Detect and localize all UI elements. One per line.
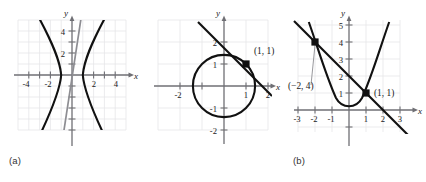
y-tick-label: 5 xyxy=(339,21,343,31)
y-tick-label: 3 xyxy=(339,55,343,65)
x-tick-label: 1 xyxy=(364,114,368,124)
panel-c: -3 -2 -1 1 2 3 1 2 3 4 5 (−2, 4) (1, 1) … xyxy=(284,0,426,182)
x-axis-label: x xyxy=(417,106,422,116)
x-axis-label: x xyxy=(133,71,138,81)
point-label: (1, 1) xyxy=(254,46,274,57)
plot-b-svg: -2 1 2 2 1 -1 -2 (1, 1) x y xyxy=(142,0,284,150)
x-tick-label: 3 xyxy=(398,114,402,124)
y-tick-label: 2 xyxy=(213,38,217,48)
math-figure: -4 -2 2 4 2 4 x y (a) xyxy=(0,0,426,182)
x-tick-label: 1 xyxy=(244,90,248,100)
panel-a: -4 -2 2 4 2 4 x y (a) xyxy=(0,0,142,182)
plot-a-svg: -4 -2 2 4 2 4 x y xyxy=(0,0,142,150)
leader-line xyxy=(311,45,315,85)
y-tick-label: 2 xyxy=(61,49,65,59)
y-tick-label: -2 xyxy=(210,126,217,136)
y-axis-label: y xyxy=(215,8,220,18)
y-axis-label: y xyxy=(340,8,345,18)
x-axis-label: x xyxy=(275,82,280,92)
y-tick-label: -1 xyxy=(210,104,217,114)
x-tick-label: -2 xyxy=(310,114,317,124)
y-tick-label: 4 xyxy=(61,27,66,37)
y-axis-label: y xyxy=(63,8,68,18)
y-tick-label: 2 xyxy=(339,72,343,82)
x-tick-label: -1 xyxy=(327,114,334,124)
plot-a: -4 -2 2 4 2 4 x y xyxy=(0,0,142,150)
x-tick-label: -3 xyxy=(293,114,300,124)
point-marker xyxy=(362,89,369,96)
panel-b: -2 1 2 2 1 -1 -2 (1, 1) x y (b) xyxy=(142,0,284,182)
plot-b: -2 1 2 2 1 -1 -2 (1, 1) x y xyxy=(142,0,284,150)
x-tick-label: 2 xyxy=(92,79,96,89)
x-tick-label: 2 xyxy=(266,90,270,100)
y-tick-label: 1 xyxy=(339,89,343,99)
point-label: (1, 1) xyxy=(374,88,394,99)
axes-b xyxy=(154,16,276,145)
point-marker xyxy=(242,60,249,67)
y-tick-label: 1 xyxy=(213,60,217,70)
x-tick-label: -2 xyxy=(174,90,181,100)
point-label: (−2, 4) xyxy=(288,81,314,92)
plot-c-svg: -3 -2 -1 1 2 3 1 2 3 4 5 (−2, 4) (1, 1) … xyxy=(284,0,426,150)
x-tick-label: -2 xyxy=(44,79,51,89)
panel-label-a: (a) xyxy=(9,155,21,166)
point-marker xyxy=(311,38,318,45)
x-tick-label: 2 xyxy=(381,114,385,124)
x-tick-label: -4 xyxy=(22,79,30,89)
y-tick-label: 4 xyxy=(339,38,344,48)
x-tick-label: 4 xyxy=(114,79,119,89)
plot-c: -3 -2 -1 1 2 3 1 2 3 4 5 (−2, 4) (1, 1) … xyxy=(284,0,426,150)
